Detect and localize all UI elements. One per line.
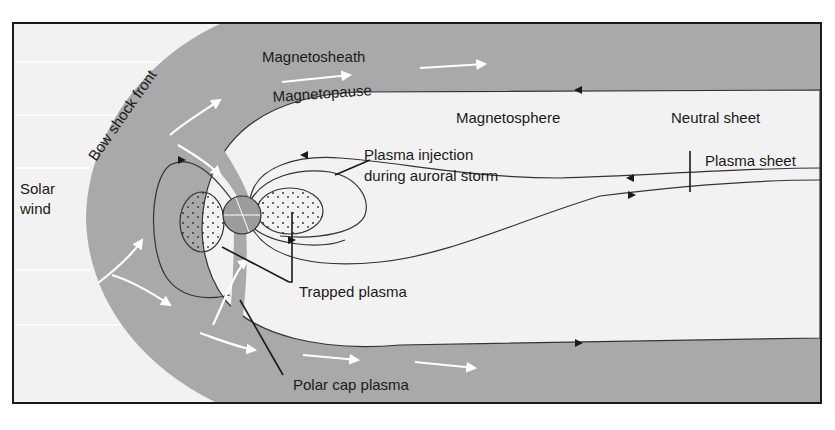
label-polar-cap-plasma: Polar cap plasma xyxy=(293,376,410,393)
label-plasma-sheet: Plasma sheet xyxy=(705,152,797,169)
trapped-plasma-left xyxy=(180,192,224,252)
label-trapped-plasma: Trapped plasma xyxy=(299,283,407,300)
label-plasma-injection-1: Plasma injection xyxy=(364,146,473,163)
label-solar-wind-2: wind xyxy=(19,200,51,217)
label-magnetosheath: Magnetosheath xyxy=(262,48,365,65)
label-magnetosphere: Magnetosphere xyxy=(456,109,560,126)
label-plasma-injection-2: during auroral storm xyxy=(364,167,498,184)
label-solar-wind-1: Solar xyxy=(20,180,55,197)
magnetosphere-diagram: Bow shock front Magnetosheath Magnetopau… xyxy=(0,0,835,430)
trapped-plasma-right xyxy=(257,188,323,234)
label-neutral-sheet: Neutral sheet xyxy=(671,109,761,126)
